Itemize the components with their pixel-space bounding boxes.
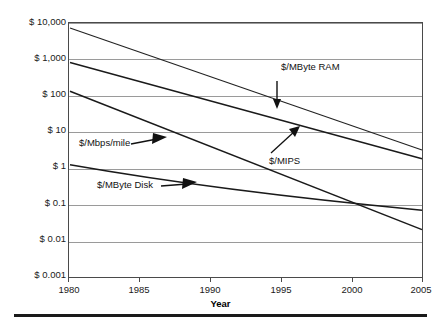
x-tick-mark-1985 [139,278,140,282]
x-axis-title: Year [0,298,441,309]
y-tick-label-0-1: $ 0.1 [4,198,66,208]
series-label-mips: $/MIPS [269,155,300,166]
y-tick-label-0-001: $ 0.001 [4,270,66,280]
annotation-arrow-mbyte-ram [273,81,281,109]
x-tick-mark-1990 [210,278,211,282]
series-label-mbyte-ram: $/MByte RAM [281,61,340,72]
bottom-divider [14,314,427,317]
series-label-mbyte-disk: $/MByte Disk [97,179,153,190]
x-tick-label-1990: 1990 [199,284,220,295]
x-tick-label-1980: 1980 [58,284,79,295]
y-tick-label-10: $ 10 [4,125,66,135]
y-axis-tick-labels: $ 10,000 $ 1,000 $ 100 $ 10 $ 1 $ 0.1 $ … [0,0,66,332]
y-tick-label-100: $ 100 [4,89,66,99]
series-line-mbps-mile [70,91,422,229]
x-tick-label-1985: 1985 [128,284,149,295]
series-label-mbps-mile: $/Mbps/mile [79,137,130,148]
plot-area: $/MByte RAM $/MIPS $/Mbps/mile $/MByte D… [68,22,423,278]
annotation-arrow-mbps-mile [131,133,167,144]
x-tick-mark-1995 [281,278,282,282]
y-tick-label-1: $ 1 [4,161,66,171]
y-tick-label-10000: $ 10,000 [4,17,66,27]
chart-figure: $ 10,000 $ 1,000 $ 100 $ 10 $ 1 $ 0.1 $ … [0,0,441,332]
series-line-mbyte-ram [70,28,422,150]
annotation-arrow-mips [271,126,300,153]
x-tick-mark-1980 [68,278,69,282]
series-lines [69,23,424,279]
x-tick-label-2005: 2005 [410,284,431,295]
x-tick-mark-2000 [352,278,353,282]
x-tick-label-2000: 2000 [341,284,362,295]
y-tick-label-1000: $ 1,000 [4,53,66,63]
x-tick-label-1995: 1995 [270,284,291,295]
x-tick-mark-2005 [422,278,423,282]
y-tick-label-0-01: $ 0.01 [4,234,66,244]
